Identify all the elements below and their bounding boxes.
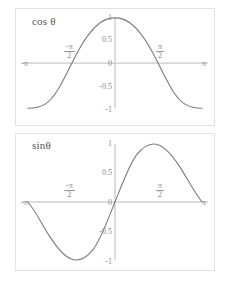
y-tick-cos-0.5: 0.5 [96,36,112,44]
plot-area-sin [16,134,214,270]
chart-title-sin: sinθ [32,139,51,151]
x-tick-cos-neg-pi: -π [21,60,28,68]
x-tick-sin-neg-pi-over-2: -π 2 [64,182,75,200]
chart-title-cos: cos θ [32,15,56,27]
plot-svg-sin [16,134,214,270]
y-tick-cos-neg0.5: -0.5 [94,83,112,91]
x-tick-sin-neg-pi: -π [21,199,28,207]
x-tick-sin-pi: π [202,199,206,207]
y-tick-cos-neg1: -1 [96,106,112,114]
x-tick-cos-neg-pi-over-2: -π 2 [64,43,75,61]
y-tick-cos-1: 1 [98,14,112,22]
x-tick-sin-pi-over-2-denominator: 2 [156,191,164,199]
chart-panel-sin: sinθ 1 0.5 0 -0.5 -1 -π π -π 2 π 2 [15,133,215,271]
x-tick-cos-pi-over-2-denominator: 2 [156,52,164,60]
x-tick-sin-pi-over-2: π 2 [156,182,164,200]
y-tick-sin-1: 1 [98,140,112,148]
y-tick-sin-neg1: -1 [96,258,112,266]
y-tick-sin-0.5: 0.5 [96,169,112,177]
figure-container: cos θ 1 0.5 0 -0.5 -1 -π π -π 2 π 2 [0,0,231,286]
y-tick-sin-0: 0 [98,199,112,207]
x-tick-sin-neg-pi-over-2-denominator: 2 [64,191,75,199]
y-tick-cos-0: 0 [98,60,112,68]
chart-panel-cos: cos θ 1 0.5 0 -0.5 -1 -π π -π 2 π 2 [15,8,215,126]
x-tick-cos-neg-pi-over-2-denominator: 2 [64,52,75,60]
y-tick-sin-neg0.5: -0.5 [94,228,112,236]
x-tick-cos-pi: π [202,60,206,68]
x-tick-cos-pi-over-2: π 2 [156,43,164,61]
